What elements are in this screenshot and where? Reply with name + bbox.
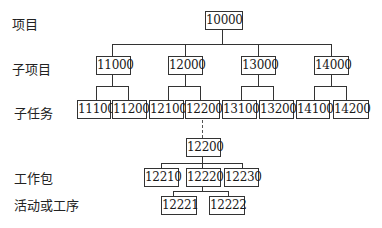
connector: [185, 75, 186, 86]
node-subtask: 14200: [333, 100, 369, 119]
node-root: 10000: [205, 11, 243, 30]
level-label-subproject: 子项目: [12, 59, 51, 78]
connector: [258, 75, 259, 86]
wbs-diagram: 项目 子项目 子任务 工作包 活动或工序 10000 11000 12000 1…: [0, 0, 382, 228]
node-subproject: 12000: [168, 56, 203, 75]
node-expanded-subtask: 12200: [186, 138, 221, 157]
expansion-connector: [202, 120, 203, 138]
level-label-project: 项目: [12, 14, 38, 33]
node-subtask: 13100: [222, 100, 257, 119]
connector: [128, 86, 129, 100]
node-subproject: 13000: [241, 56, 276, 75]
node-subproject: 14000: [314, 56, 349, 75]
level-label-activity: 活动或工序: [14, 195, 79, 214]
connector: [331, 44, 332, 56]
connector: [168, 86, 201, 87]
node-subtask: 11100: [77, 100, 111, 119]
node-subtask: 11200: [112, 100, 147, 119]
node-activity: 12222: [209, 196, 245, 215]
node-activity: 12221: [161, 196, 197, 215]
connector: [112, 44, 332, 45]
connector: [96, 86, 97, 100]
connector: [222, 30, 223, 44]
node-work-package: 12230: [224, 168, 259, 187]
connector: [168, 86, 169, 100]
node-subtask: 12200: [185, 100, 220, 119]
connector: [314, 86, 347, 87]
connector: [112, 75, 113, 86]
connector: [314, 86, 315, 100]
connector: [346, 86, 347, 100]
connector: [331, 75, 332, 86]
node-work-package: 12220: [186, 168, 221, 187]
connector: [96, 86, 129, 87]
node-subtask: 13200: [259, 100, 294, 119]
connector: [273, 86, 274, 100]
node-subtask: 12100: [149, 100, 184, 119]
level-label-subtask: 子任务: [14, 103, 53, 122]
connector: [258, 44, 259, 56]
node-subtask: 14100: [296, 100, 330, 119]
connector: [241, 86, 242, 100]
connector: [200, 86, 201, 100]
connector: [173, 191, 228, 192]
level-label-work-package: 工作包: [14, 168, 53, 187]
connector: [241, 86, 274, 87]
connector: [185, 44, 186, 56]
connector: [112, 44, 113, 56]
node-subproject: 11000: [96, 56, 131, 75]
node-work-package: 12210: [144, 168, 179, 187]
